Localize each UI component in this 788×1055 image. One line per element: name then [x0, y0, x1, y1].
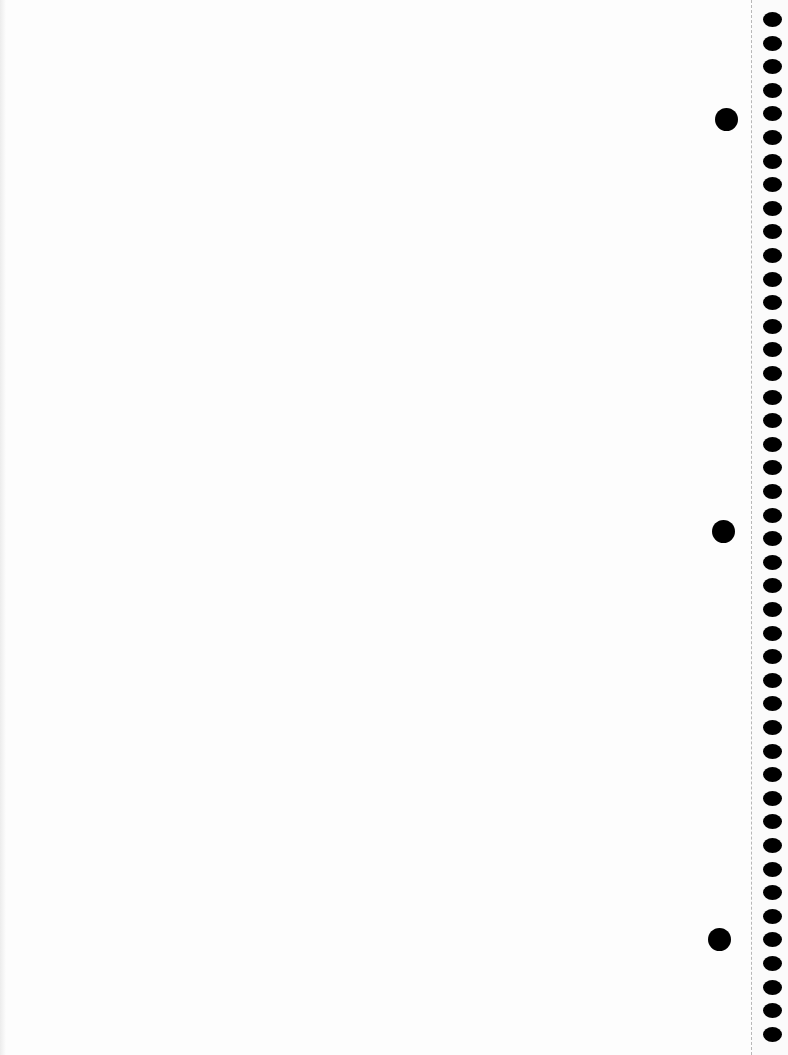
punch-hole [712, 520, 735, 543]
notebook-page [0, 0, 788, 1055]
binding-hole [763, 956, 782, 971]
binding-hole [763, 366, 782, 381]
binding-hole [763, 201, 782, 216]
page-edge-shadow [0, 0, 6, 1055]
binding-hole [763, 814, 782, 829]
binding-hole [763, 1003, 782, 1018]
binding-hole [763, 295, 782, 310]
binding-hole [763, 106, 782, 121]
binding-hole [763, 272, 782, 287]
binding-hole [763, 720, 782, 735]
binding-hole [763, 578, 782, 593]
binding-hole [763, 531, 782, 546]
binding-hole [763, 59, 782, 74]
binding-hole [763, 342, 782, 357]
binding-hole [763, 885, 782, 900]
binding-hole [763, 177, 782, 192]
binding-hole [763, 744, 782, 759]
binding-hole [763, 862, 782, 877]
binding-hole [763, 413, 782, 428]
binding-hole [763, 224, 782, 239]
punch-hole [715, 108, 738, 131]
binding-hole [763, 437, 782, 452]
binding-hole [763, 932, 782, 947]
binding-hole [763, 12, 782, 27]
perforation-line [751, 0, 752, 1055]
binding-hole [763, 980, 782, 995]
binding-hole [763, 83, 782, 98]
binding-hole [763, 130, 782, 145]
binding-hole [763, 1027, 782, 1042]
binding-hole [763, 484, 782, 499]
binding-hole [763, 508, 782, 523]
binding-hole [763, 791, 782, 806]
punch-hole [708, 928, 731, 951]
binding-hole [763, 696, 782, 711]
binding-hole [763, 909, 782, 924]
binding-hole [763, 602, 782, 617]
binding-hole [763, 838, 782, 853]
binding-hole [763, 460, 782, 475]
binding-hole [763, 319, 782, 334]
binding-hole [763, 673, 782, 688]
binding-hole [763, 649, 782, 664]
binding-hole [763, 36, 782, 51]
binding-hole [763, 154, 782, 169]
binding-hole [763, 390, 782, 405]
binding-hole [763, 555, 782, 570]
binding-hole [763, 626, 782, 641]
binding-hole [763, 767, 782, 782]
binding-hole [763, 248, 782, 263]
